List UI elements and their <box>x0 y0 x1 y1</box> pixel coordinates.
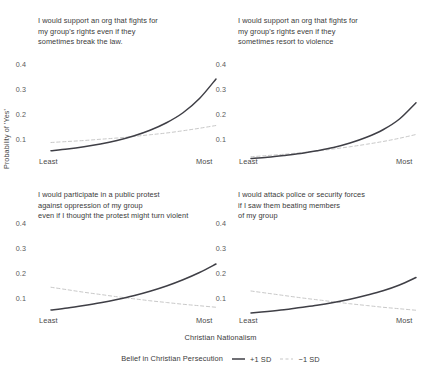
x-tick-label-most: Most <box>196 157 212 166</box>
series-line-minus1sd <box>251 135 416 157</box>
panel-title-support-org-break-law: I would support an org that fights for m… <box>38 16 223 48</box>
y-tick-label: 0.3 <box>204 85 226 94</box>
y-tick-label: 0.4 <box>4 219 26 228</box>
x-tick-label-most: Most <box>196 316 212 325</box>
legend-title: Belief in Christian Persecution <box>121 354 223 363</box>
x-tick-label-least: Least <box>39 157 58 166</box>
x-tick-label-most: Most <box>396 316 412 325</box>
y-tick-label: 0.4 <box>204 219 226 228</box>
legend-label-plus1sd: +1 SD <box>250 355 271 364</box>
x-tick-label-least: Least <box>39 316 58 325</box>
facet-panel-protest-turn-violent: I would participate in a public protest … <box>0 0 441 371</box>
series-line-plus1sd <box>51 264 216 310</box>
facet-panel-support-org-break-law: I would support an org that fights for m… <box>0 0 441 371</box>
y-tick-label: 0.3 <box>4 244 26 253</box>
panel-title-attack-police: I would attack police or security forces… <box>238 190 423 222</box>
legend-label-minus1sd: −1 SD <box>298 355 319 364</box>
y-tick-label: 0.3 <box>204 244 226 253</box>
y-tick-label: 0.2 <box>4 269 26 278</box>
series-line-minus1sd <box>51 126 216 143</box>
plot-area-support-org-break-law <box>51 54 216 176</box>
y-tick-label: 0.4 <box>4 60 26 69</box>
y-tick-label: 0.1 <box>4 294 26 303</box>
series-line-minus1sd <box>251 291 416 310</box>
facet-panel-attack-police: I would attack police or security forces… <box>0 0 441 371</box>
y-tick-label: 0.2 <box>204 110 226 119</box>
panel-title-protest-turn-violent: I would participate in a public protest … <box>38 190 223 222</box>
y-tick-label: 0.2 <box>204 269 226 278</box>
plot-area-attack-police <box>251 213 416 335</box>
y-axis-title-text: Probability of 'Yes' <box>2 89 11 189</box>
x-tick-label-most: Most <box>396 157 412 166</box>
series-line-plus1sd <box>251 278 416 314</box>
x-tick-label-least: Least <box>239 316 258 325</box>
y-tick-label: 0.1 <box>204 294 226 303</box>
y-tick-label: 0.4 <box>204 60 226 69</box>
x-axis-title: Christian Nationalism <box>0 333 441 342</box>
series-line-minus1sd <box>51 287 216 307</box>
panel-title-support-org-violence: I would support an org that fights for m… <box>238 16 423 48</box>
plot-area-support-org-violence <box>251 54 416 176</box>
series-line-plus1sd <box>51 79 216 151</box>
legend-key-minus1sd[interactable] <box>280 356 293 362</box>
series-line-plus1sd <box>251 103 416 159</box>
x-tick-label-least: Least <box>239 157 258 166</box>
y-tick-label: 0.1 <box>204 135 226 144</box>
legend-key-plus1sd[interactable] <box>232 356 245 362</box>
plot-area-protest-turn-violent <box>51 213 216 335</box>
facet-panel-support-org-violence: I would support an org that fights for m… <box>0 0 441 371</box>
legend: Belief in Christian Persecution +1 SD −1… <box>0 354 441 364</box>
facet-chart-figure: Probability of 'Yes' I would support an … <box>0 0 441 371</box>
